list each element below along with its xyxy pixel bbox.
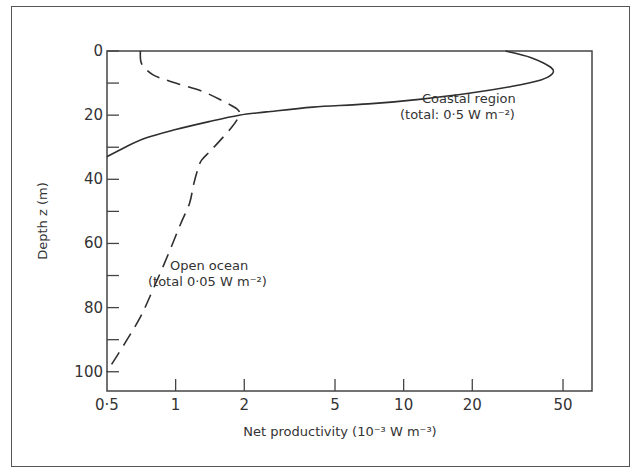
y-tick-label: 100 [74, 363, 103, 381]
x-axis-ticks: 0·5125102050 [95, 379, 572, 414]
plot-frame [107, 51, 592, 391]
x-tick-label: 1 [171, 396, 181, 414]
x-tick-label: 10 [394, 396, 413, 414]
series-annotation-name: Coastal region [422, 91, 516, 106]
chart: 020406080100 0·5125102050 Coastal region… [0, 0, 635, 472]
y-axis-title: Depth z (m) [35, 182, 50, 260]
x-tick-label: 5 [330, 396, 340, 414]
y-tick-label: 60 [84, 234, 103, 252]
series-annotation-total: (total 0·05 W m⁻²) [148, 274, 267, 289]
x-tick-label: 2 [240, 396, 250, 414]
x-tick-label: 50 [553, 396, 572, 414]
series-annotation-name: Open ocean [170, 258, 248, 273]
x-tick-label: 0·5 [95, 396, 119, 414]
open-ocean-line [107, 51, 240, 372]
y-axis-ticks: 020406080100 [74, 42, 119, 381]
y-tick-label: 20 [84, 106, 103, 124]
x-tick-label: 20 [463, 396, 482, 414]
y-tick-label: 80 [84, 299, 103, 317]
series-annotation-total: (total: 0·5 W m⁻²) [400, 107, 515, 122]
x-axis-title: Net productivity (10⁻³ W m⁻³) [243, 424, 436, 439]
y-tick-label: 40 [84, 170, 103, 188]
annotations: Coastal region(total: 0·5 W m⁻²)Open oce… [148, 91, 516, 289]
y-tick-label: 0 [93, 42, 103, 60]
